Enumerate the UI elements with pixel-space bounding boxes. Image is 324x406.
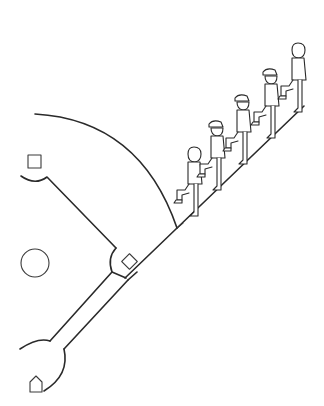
raised-leg-icon bbox=[177, 184, 189, 200]
player-1 bbox=[174, 147, 202, 216]
player-5 bbox=[278, 43, 306, 112]
torso-icon bbox=[265, 84, 279, 106]
cap-icon bbox=[263, 69, 277, 75]
standing-leg-icon bbox=[190, 184, 198, 216]
raised-foot-icon bbox=[223, 148, 231, 151]
raised-foot-icon bbox=[174, 200, 182, 203]
head-icon bbox=[188, 147, 201, 162]
standing-leg-icon bbox=[294, 80, 302, 112]
baseball-field-illustration bbox=[0, 0, 324, 406]
pitchers-mound-icon bbox=[21, 249, 49, 277]
second-base-icon bbox=[28, 155, 41, 168]
outfield-arc bbox=[35, 114, 177, 228]
standing-leg-icon bbox=[267, 106, 275, 138]
raised-leg-icon bbox=[226, 132, 238, 148]
raised-foot-icon bbox=[278, 96, 286, 99]
raised-foot-icon bbox=[251, 122, 259, 125]
torso-icon bbox=[211, 136, 225, 158]
arc-foul-connector bbox=[177, 223, 183, 228]
standing-leg-icon bbox=[213, 158, 221, 190]
torso-icon bbox=[237, 110, 251, 132]
standing-leg-icon bbox=[239, 132, 247, 164]
torso-icon bbox=[292, 58, 306, 80]
raised-leg-icon bbox=[281, 80, 293, 96]
raised-leg-icon bbox=[200, 158, 212, 174]
players-group bbox=[174, 43, 306, 216]
head-icon bbox=[265, 76, 277, 84]
head-icon bbox=[237, 102, 249, 110]
cap-icon bbox=[235, 95, 249, 101]
home-plate-icon bbox=[30, 376, 42, 392]
cap-icon bbox=[209, 121, 223, 127]
raised-foot-icon bbox=[197, 174, 205, 177]
home-cutout-arc bbox=[20, 340, 65, 391]
player-4 bbox=[251, 69, 279, 138]
raised-leg-icon bbox=[254, 106, 266, 122]
first-base-icon bbox=[122, 254, 138, 270]
head-icon bbox=[211, 128, 223, 136]
head-icon bbox=[292, 43, 305, 58]
player-3 bbox=[223, 95, 251, 164]
second-base-cutout bbox=[21, 176, 116, 248]
